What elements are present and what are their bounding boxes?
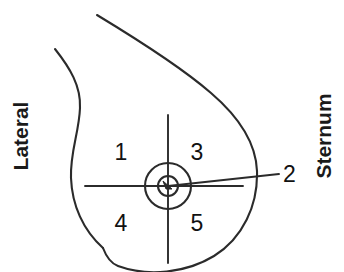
orientation-label-sternum-text: Sternum [313, 93, 334, 178]
orientation-label-lateral-text: Lateral [10, 102, 31, 171]
breast-upper-lateral-contour [55, 49, 103, 248]
quadrant-number-1: 1 [110, 141, 132, 164]
orientation-label-lateral: Lateral [0, 0, 40, 272]
quadrant-number-3: 3 [186, 141, 208, 164]
orientation-label-sternum: Sternum [302, 0, 344, 272]
quadrant-number-4: 4 [110, 212, 132, 235]
breast-quadrant-diagram: Lateral Sternum 1 3 4 5 2 [0, 0, 344, 272]
callout-number-2: 2 [283, 163, 296, 186]
callout-2-leader-line [168, 174, 279, 186]
breast-outline-svg [0, 0, 344, 272]
quadrant-number-5: 5 [186, 212, 208, 235]
